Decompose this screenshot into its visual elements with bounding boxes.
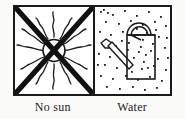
caption-no-sun: No sun [13,97,93,117]
can-handle-inner [131,27,148,35]
symbol-frame [13,5,172,96]
watering-can-icon [95,7,170,94]
can-body [127,35,155,79]
figure-root: No sun Water [0,0,185,119]
panel-water [93,7,170,94]
caption-water: Water [93,97,173,117]
panel-no-sun [15,7,93,94]
caption-row: No sun Water [13,97,172,117]
sun-crossed-out-icon [15,7,93,94]
